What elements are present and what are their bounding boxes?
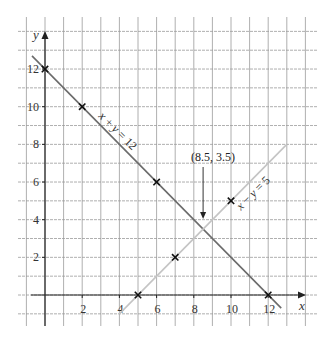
y-tick-label: 12 [27,62,39,76]
plot-area: x y 2468101224681012 x + y = 12x − y = 5… [0,0,331,337]
y-tick-label: 6 [33,175,39,189]
series: x + y = 12x − y = 5 [32,56,287,314]
annotations: (8.5, 3.5) [191,150,235,219]
y-tick-label: 4 [33,213,39,227]
x-axis-label: x [298,298,305,313]
x-tick-label: 12 [263,302,275,316]
x-tick-label: 10 [226,302,238,316]
x-tick-label: 6 [155,302,161,316]
tick-labels: 2468101224681012 [27,62,275,316]
y-tick-label: 10 [27,100,39,114]
annotation-label: (8.5, 3.5) [191,150,235,164]
y-tick-label: 2 [33,250,39,264]
x-tick-label: 2 [80,302,86,316]
grid [18,17,318,326]
chart: x y 2468101224681012 x + y = 12x − y = 5… [0,0,331,337]
y-axis-label: y [31,27,39,42]
series-label: x + y = 12 [95,108,140,153]
x-tick-label: 8 [192,302,198,316]
arrow-down-icon [200,212,206,219]
y-axis-arrow-icon [42,31,49,39]
y-tick-label: 8 [33,137,39,151]
